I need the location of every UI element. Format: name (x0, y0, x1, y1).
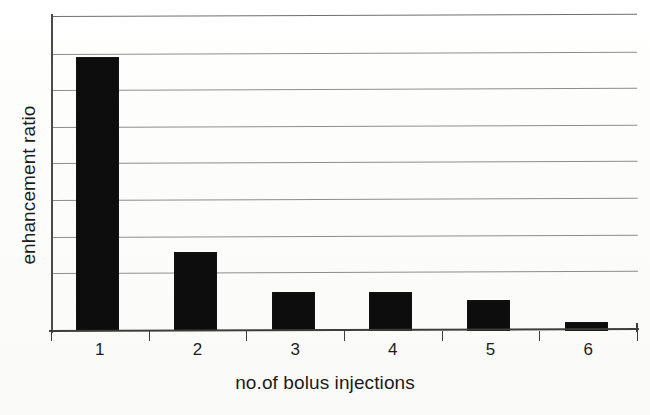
bar (76, 57, 119, 331)
bar-series (51, 16, 637, 331)
x-axis-tick-label: 4 (373, 340, 413, 360)
x-axis-tick-labels: 123456 (51, 340, 637, 366)
bar (174, 252, 217, 331)
x-axis-tick-label: 1 (80, 340, 120, 360)
x-axis-tick-label: 6 (568, 340, 608, 360)
x-axis-title: no.of bolus injections (0, 372, 650, 394)
x-axis-tick (637, 331, 638, 341)
x-axis-tick-label: 5 (471, 340, 511, 360)
y-axis-title: enhancement ratio (18, 105, 40, 264)
y-axis-title-container: enhancement ratio (8, 0, 50, 370)
plot-area (51, 16, 637, 331)
bar (369, 292, 412, 331)
x-axis-tick-label: 3 (275, 340, 315, 360)
bar (467, 300, 510, 332)
bar (272, 292, 315, 331)
bar-chart-figure: enhancement ratio 123456 no.of bolus inj… (0, 0, 650, 415)
x-axis-tick-label: 2 (178, 340, 218, 360)
